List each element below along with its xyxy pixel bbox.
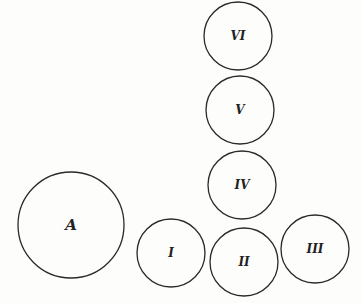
circle-iii: III — [281, 215, 349, 283]
circle-vi: VI — [204, 2, 272, 70]
circle-v: V — [206, 76, 274, 144]
circle-i-label: I — [167, 246, 174, 260]
circle-i: I — [137, 219, 205, 287]
circle-vi-label: VI — [231, 29, 246, 43]
circle-iii-label: III — [306, 242, 324, 256]
circle-a: A — [18, 172, 124, 278]
circle-v-label: V — [235, 103, 246, 117]
circle-iv: IV — [208, 151, 276, 219]
circle-ii-label: II — [237, 255, 250, 269]
diagram-canvas: A I II III IV V VI — [0, 0, 362, 303]
circles-diagram: A I II III IV V VI — [0, 0, 362, 303]
circle-iv-label: IV — [234, 178, 252, 192]
circle-ii: II — [210, 228, 278, 296]
circle-a-label: A — [63, 216, 77, 234]
